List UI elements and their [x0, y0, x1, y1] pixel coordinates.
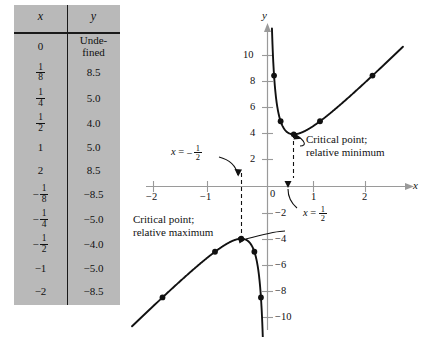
y-tick-label-neg10: −10	[275, 311, 291, 322]
origin-label: 0	[270, 188, 275, 199]
curve-left-branch	[132, 239, 263, 337]
label-left-numerator: 1	[194, 144, 202, 153]
data-point-marker	[271, 73, 277, 79]
x-tick-label-neg2: −2	[146, 191, 157, 202]
graph-canvas	[0, 0, 431, 337]
y-tick-label-4: 4	[250, 127, 255, 138]
annotation-relative-minimum: Critical point; relative minimum	[306, 133, 385, 159]
label-x-equals-neg-one-half: x = −12	[171, 144, 202, 162]
annotation-relative-maximum: Critical point; relative maximum	[133, 213, 213, 239]
annotation-max-line1: Critical point;	[133, 213, 213, 226]
label-x-equals-one-half: x = 12	[303, 205, 327, 223]
y-tick-label-6: 6	[250, 101, 255, 112]
data-point-marker	[317, 118, 323, 124]
label-left-fraction: 12	[194, 144, 202, 162]
label-left-lhs: x	[171, 146, 176, 157]
label-right-denominator: 2	[319, 213, 327, 223]
y-tick-label-2: 2	[250, 153, 255, 164]
y-tick-label-neg2: −2	[275, 207, 286, 218]
label-right-numerator: 1	[319, 205, 327, 214]
y-axis-label: y	[262, 9, 267, 21]
data-point-marker	[212, 249, 218, 255]
data-point-marker	[258, 295, 264, 301]
curve-right-branch	[272, 29, 403, 135]
y-tick-label-neg8: −8	[275, 285, 286, 296]
annotation-min-line1: Critical point;	[306, 133, 385, 146]
annotation-min-line2: relative minimum	[306, 146, 385, 159]
x-tick-label-1: 1	[311, 191, 316, 202]
label-left-neg: −	[187, 148, 193, 159]
figure-container: x y 0Unde-fined188.5145.0124.015.028.5−1…	[0, 0, 431, 337]
x-axis-label: x	[413, 179, 418, 191]
y-tick-label-neg4: −4	[275, 233, 286, 244]
data-point-marker	[370, 73, 376, 79]
data-point-marker	[160, 295, 166, 301]
annotation-max-line2: relative maximum	[133, 226, 213, 239]
y-tick-label-10: 10	[243, 49, 254, 60]
label-left-denominator: 2	[194, 152, 202, 162]
label-right-eq: =	[310, 207, 316, 218]
axis-lines	[146, 23, 414, 330]
label-right-lhs: x	[303, 207, 308, 218]
label-left-eq: =	[178, 146, 184, 157]
y-tick-label-8: 8	[250, 75, 255, 86]
data-point-marker	[278, 118, 284, 124]
label-right-fraction: 12	[319, 205, 327, 223]
data-point-marker	[251, 249, 257, 255]
y-tick-label-neg6: −6	[275, 259, 286, 270]
x-tick-label-2: 2	[362, 191, 367, 202]
x-tick-label-neg1: −1	[200, 191, 211, 202]
